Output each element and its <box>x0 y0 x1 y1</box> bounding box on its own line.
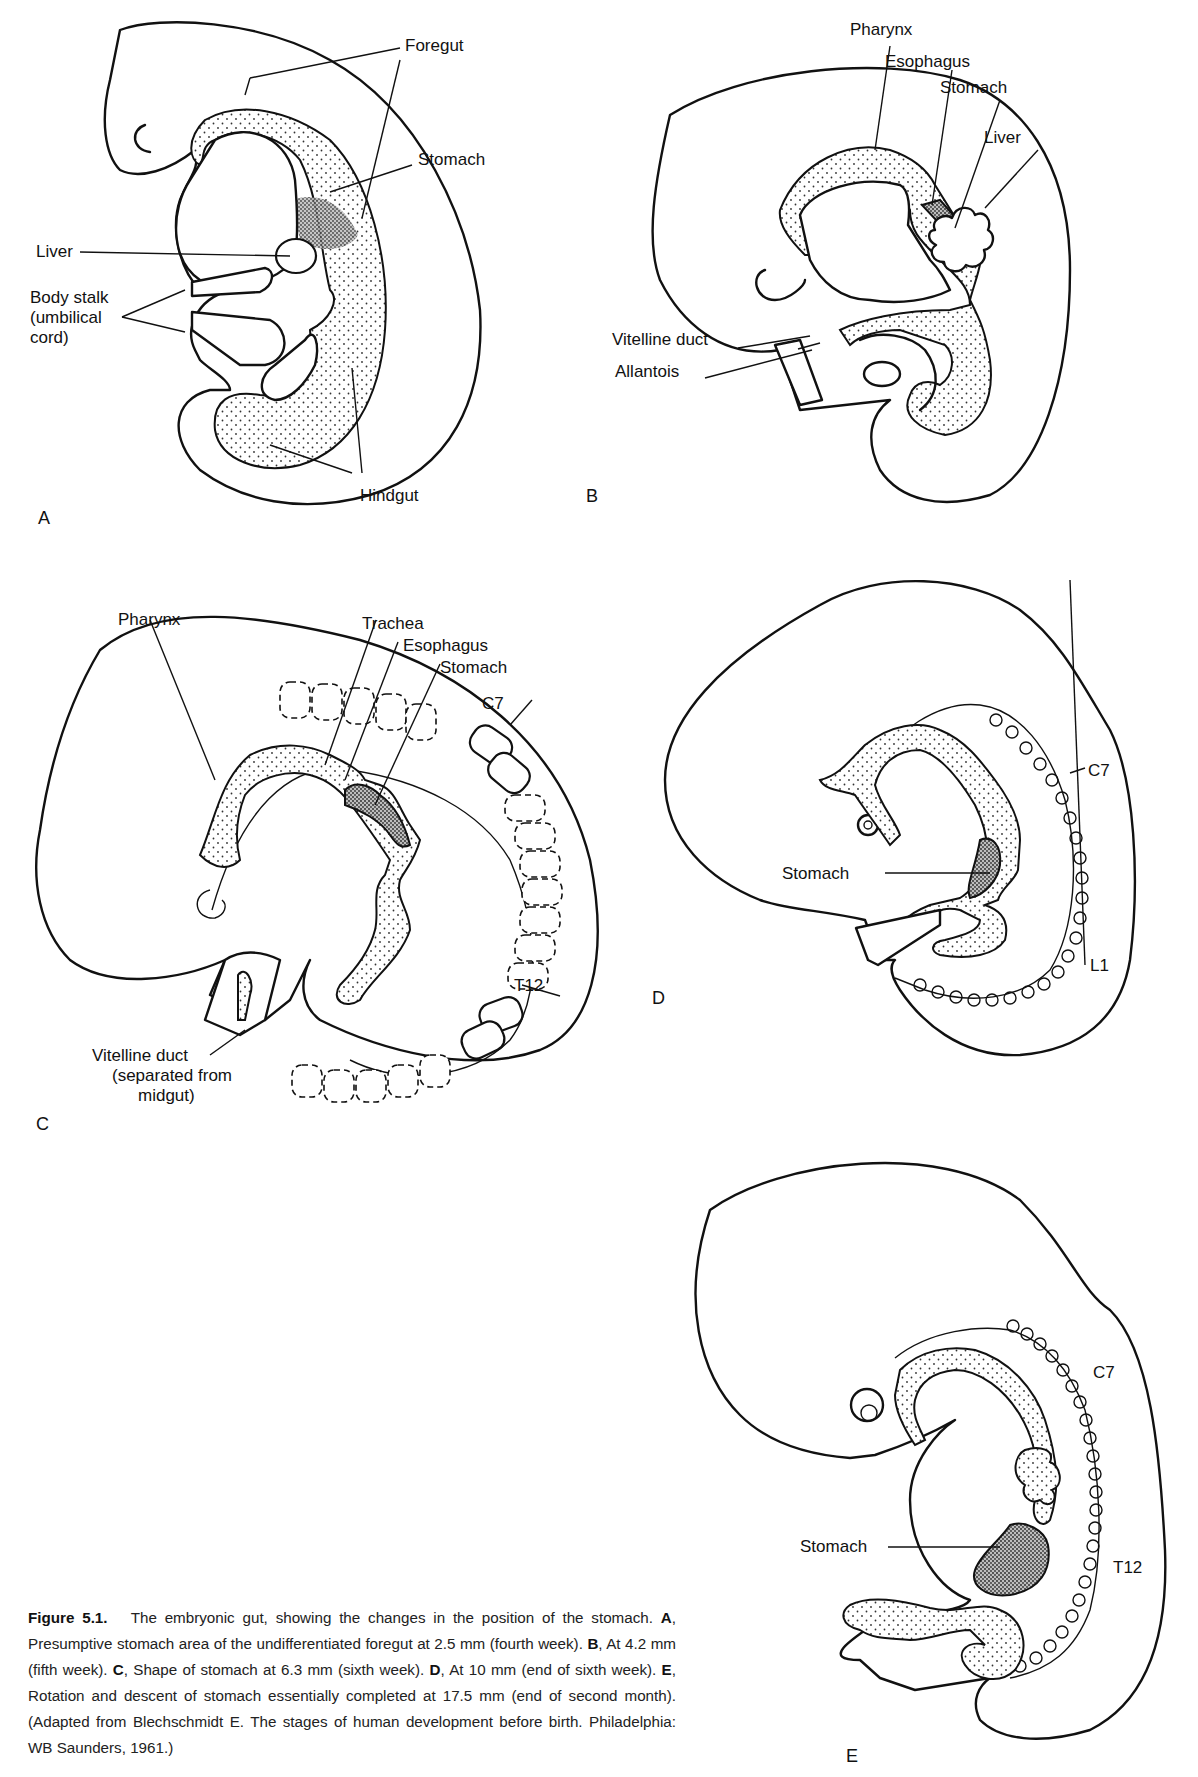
caption-letter-b: B <box>587 1635 598 1652</box>
label-l1: L1 <box>1090 956 1109 976</box>
label-esophagus: Esophagus <box>403 636 488 656</box>
panel-c-diagram <box>0 580 620 1120</box>
caption-letter-a: A <box>661 1609 672 1626</box>
label-stomach: Stomach <box>418 150 485 170</box>
label-c7: C7 <box>1093 1363 1115 1383</box>
figure-number: Figure 5.1. <box>28 1609 108 1626</box>
label-body-stalk: Body stalk <box>30 288 108 308</box>
label-hindgut: Hindgut <box>360 486 419 506</box>
caption-text-d: , At 10 mm (end of sixth week). <box>441 1661 657 1678</box>
label-umbilical: (umbilical <box>30 308 102 328</box>
label-stomach: Stomach <box>800 1537 867 1557</box>
label-liver: Liver <box>36 242 73 262</box>
panel-letter-c: C <box>36 1114 49 1135</box>
panel-b-diagram <box>600 0 1198 580</box>
label-separated-from: (separated from <box>112 1066 232 1086</box>
label-stomach: Stomach <box>440 658 507 678</box>
caption-letter-e: E <box>662 1661 672 1678</box>
caption-lead: The embryonic gut, showing the changes i… <box>131 1609 653 1626</box>
caption-letter-c: C <box>113 1661 124 1678</box>
figure-caption: Figure 5.1. The embryonic gut, showing t… <box>28 1605 676 1761</box>
panel-e-diagram <box>680 1200 1198 1777</box>
label-foregut: Foregut <box>405 36 464 56</box>
label-t12: T12 <box>514 976 543 996</box>
label-trachea: Trachea <box>362 614 424 634</box>
label-pharynx: Pharynx <box>850 20 912 40</box>
label-c7: C7 <box>482 694 504 714</box>
panel-e: Stomach C7 T12 E <box>680 1200 1198 1777</box>
panel-d-diagram <box>640 580 1198 1060</box>
caption-letter-d: D <box>430 1661 441 1678</box>
label-cord: cord) <box>30 328 69 348</box>
panel-letter-e: E <box>846 1746 858 1767</box>
panel-letter-b: B <box>586 486 598 507</box>
label-allantois: Allantois <box>615 362 679 382</box>
label-t12: T12 <box>1113 1558 1142 1578</box>
panel-a: Foregut Stomach Liver Body stalk (umbili… <box>0 0 600 580</box>
panel-d: Stomach C7 L1 D <box>640 580 1198 1060</box>
caption-text-c: , Shape of stomach at 6.3 mm (sixth week… <box>124 1661 424 1678</box>
panel-c: Pharynx Trachea Esophagus Stomach C7 T12… <box>0 580 620 1120</box>
panel-b: Pharynx Esophagus Stomach Liver Vitellin… <box>600 0 1198 580</box>
panel-letter-d: D <box>652 988 665 1009</box>
label-stomach: Stomach <box>782 864 849 884</box>
label-liver: Liver <box>984 128 1021 148</box>
label-vitelline-duct: Vitelline duct <box>612 330 708 350</box>
label-midgut: midgut) <box>138 1086 195 1106</box>
panel-letter-a: A <box>38 508 50 529</box>
label-esophagus: Esophagus <box>885 52 970 72</box>
label-stomach: Stomach <box>940 78 1007 98</box>
label-pharynx: Pharynx <box>118 610 180 630</box>
label-c7: C7 <box>1088 761 1110 781</box>
label-vitelline-duct: Vitelline duct <box>92 1046 188 1066</box>
